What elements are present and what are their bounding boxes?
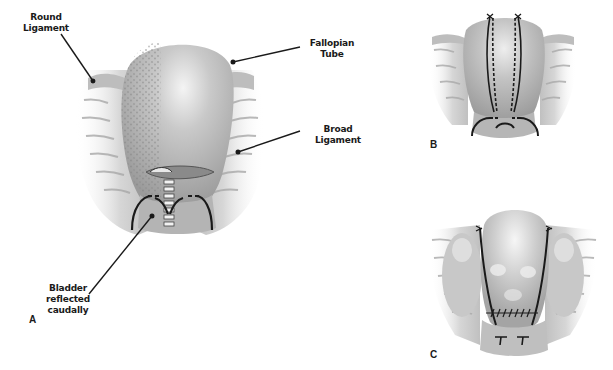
bladder-reflected-caudally-label: Bladder reflected caudally bbox=[38, 283, 98, 316]
panel-b-drawing bbox=[429, 14, 576, 138]
panel-label-b: B bbox=[430, 139, 437, 150]
panel-label-a: A bbox=[29, 314, 36, 325]
round-ligament-label: Round Ligament bbox=[20, 12, 72, 34]
panel-a-drawing bbox=[61, 34, 300, 294]
panel-c-drawing bbox=[430, 210, 597, 356]
panel-label-c: C bbox=[430, 349, 437, 360]
fallopian-tube-label: Fallopian Tube bbox=[304, 38, 360, 60]
broad-ligament-label: Broad Ligament bbox=[310, 124, 366, 146]
